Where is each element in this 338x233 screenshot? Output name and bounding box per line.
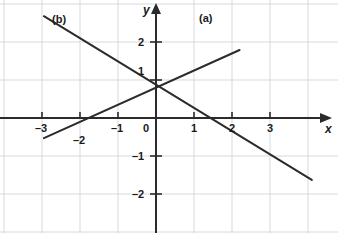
y-tick-label-2: 2 bbox=[138, 37, 144, 48]
x-tick-label-2: 2 bbox=[229, 123, 235, 134]
x-tick-label-1: 1 bbox=[191, 123, 197, 134]
x-tick-label-minus2: –2 bbox=[73, 135, 85, 146]
y-tick-label-minus1: –1 bbox=[132, 151, 144, 162]
x-axis-label: x bbox=[325, 123, 332, 135]
x-tick-label-minus3: –3 bbox=[35, 123, 47, 134]
x-tick-label-minus1: –1 bbox=[111, 123, 123, 134]
curve-label-b: (b) bbox=[52, 14, 66, 25]
y-tick-label-minus2: –2 bbox=[132, 189, 144, 200]
plot-background bbox=[0, 0, 338, 233]
graph-figure: –3 –2 –1 1 2 3 0 2 1 –1 –2 x y (a) (b) bbox=[0, 0, 338, 233]
plot-canvas bbox=[0, 0, 338, 233]
y-tick-label-1: 1 bbox=[138, 66, 144, 77]
origin-label: 0 bbox=[143, 123, 149, 134]
y-axis-label: y bbox=[143, 4, 150, 16]
x-tick-label-3: 3 bbox=[267, 123, 273, 134]
curve-label-a: (a) bbox=[199, 13, 212, 24]
